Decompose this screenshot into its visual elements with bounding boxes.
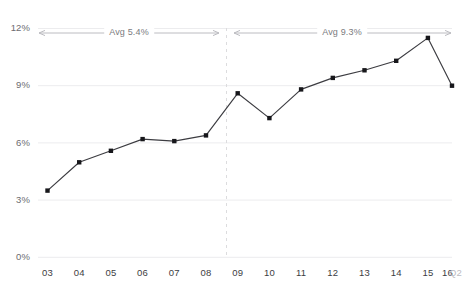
data-point <box>140 137 144 141</box>
data-point <box>426 36 430 40</box>
data-point <box>236 91 240 95</box>
data-points <box>45 36 454 193</box>
data-point <box>450 84 454 88</box>
y-axis-tick-9: 9% <box>4 80 30 90</box>
x-axis-tick-04: 04 <box>66 267 92 278</box>
data-point <box>45 188 49 192</box>
chart-canvas <box>0 0 463 293</box>
data-point <box>362 68 366 72</box>
x-axis-tick-06: 06 <box>130 267 156 278</box>
data-point <box>394 59 398 63</box>
x-axis-tick-10: 10 <box>256 267 282 278</box>
y-axis-tick-3: 3% <box>4 195 30 205</box>
x-axis-tick-13: 13 <box>352 267 378 278</box>
x-axis-tick-suffix-q2: Q2 <box>449 267 462 278</box>
x-axis-tick-12: 12 <box>320 267 346 278</box>
data-point <box>109 149 113 153</box>
x-axis-tick-05: 05 <box>98 267 124 278</box>
x-axis-tick-08: 08 <box>193 267 219 278</box>
x-axis-tick-03: 03 <box>35 267 61 278</box>
annotation-label-right: Avg 9.3% <box>317 27 367 38</box>
data-point <box>331 76 335 80</box>
data-point <box>299 87 303 91</box>
data-point <box>204 133 208 137</box>
data-point <box>172 139 176 143</box>
y-axis-tick-6: 6% <box>4 138 30 148</box>
data-point <box>77 160 81 164</box>
y-axis-tick-12: 12% <box>4 23 30 33</box>
x-axis-tick-09: 09 <box>225 267 251 278</box>
annotation-label-left: Avg 5.4% <box>104 27 154 38</box>
data-point <box>267 116 271 120</box>
line-chart: 12% 9% 6% 3% 0% Avg 5.4% Avg 9.3% 03 04 … <box>0 0 463 293</box>
y-axis-tick-0: 0% <box>4 252 30 262</box>
data-line <box>48 38 453 191</box>
x-axis-tick-07: 07 <box>161 267 187 278</box>
x-axis-tick-11: 11 <box>288 267 314 278</box>
x-axis-tick-14: 14 <box>383 267 409 278</box>
